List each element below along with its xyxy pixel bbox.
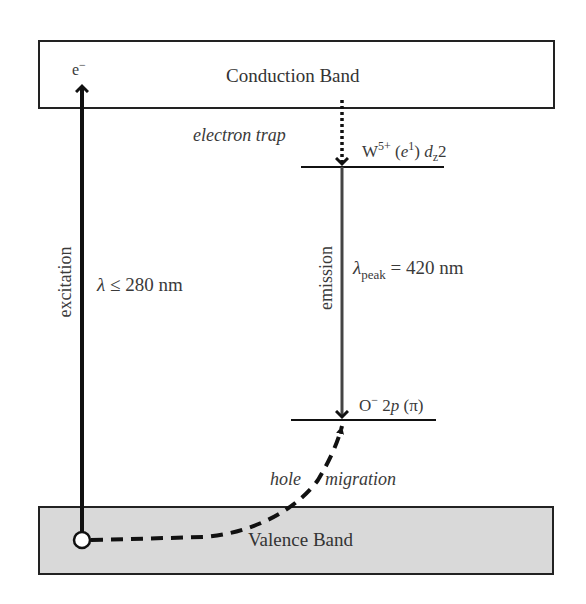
- o-ion: O: [359, 396, 371, 415]
- lambda-symbol: λ: [97, 274, 105, 295]
- orbital-tail: 2: [438, 142, 447, 161]
- w-ion: W: [362, 142, 378, 161]
- excitation-wavelength: λ ≤ 280 nm: [97, 275, 183, 294]
- lambda-symbol: λ: [353, 257, 361, 278]
- electron-trap-label: electron trap: [193, 126, 286, 144]
- w5-level-label: W5+ (e1) dz2: [362, 143, 447, 160]
- equals: =: [391, 257, 402, 278]
- orbital-pi: (π): [404, 396, 424, 415]
- migration-label: migration: [325, 470, 396, 488]
- paren-close: ): [414, 142, 420, 161]
- hole-circle-icon: [74, 532, 90, 548]
- relation: ≤: [110, 274, 120, 295]
- orbital-number: 2: [382, 396, 391, 415]
- emission-label: emission: [317, 242, 335, 314]
- excitation-wavelength-value: 280 nm: [125, 274, 183, 295]
- peak-subscript: peak: [361, 267, 386, 282]
- excitation-label: excitation: [56, 242, 74, 322]
- o-minus-level-label: O− 2p (π): [359, 397, 423, 414]
- orbital-p: p: [391, 396, 400, 415]
- o-charge: −: [371, 393, 378, 407]
- emission-wavelength-value: 420 nm: [406, 257, 464, 278]
- conduction-band-label: Conduction Band: [226, 66, 360, 85]
- w-charge: 5+: [378, 139, 391, 153]
- orbital-d: d: [424, 142, 433, 161]
- electron-charge: −: [79, 58, 86, 72]
- hole-label: hole: [270, 470, 301, 488]
- electron-label: e−: [72, 62, 86, 78]
- emission-wavelength: λpeak = 420 nm: [353, 258, 464, 277]
- valence-band-label: Valence Band: [248, 530, 353, 549]
- energy-level-diagram: Conduction Band Valence Band e− excitati…: [0, 0, 586, 604]
- diagram-graphics: [0, 0, 586, 604]
